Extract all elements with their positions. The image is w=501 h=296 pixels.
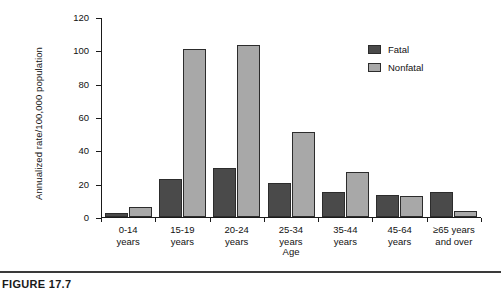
legend-label-fatal: Fatal xyxy=(388,44,409,55)
bar-group xyxy=(430,17,477,217)
caption-divider xyxy=(0,271,501,273)
x-tick-separator xyxy=(427,218,428,222)
bar-nonfatal xyxy=(183,49,206,217)
bar-series-container xyxy=(101,17,481,217)
bar-fatal xyxy=(376,195,399,217)
y-tick-label-0: 0 xyxy=(49,213,89,223)
x-tick-separator xyxy=(318,218,319,222)
x-category-label: 0-14years xyxy=(101,224,155,247)
bar-fatal xyxy=(268,183,291,216)
y-tick-label-120: 120 xyxy=(49,13,89,23)
legend-swatch-icon-fatal xyxy=(368,45,381,54)
y-tick-label-40: 40 xyxy=(49,146,89,156)
x-tick-separator xyxy=(101,218,102,222)
x-category-label: 20-24years xyxy=(210,224,264,247)
y-tick-label-60: 60 xyxy=(49,113,89,123)
x-tick-separator xyxy=(264,218,265,222)
legend-label-nonfatal: Nonfatal xyxy=(388,62,423,73)
x-axis-line xyxy=(101,217,481,219)
bar-fatal xyxy=(430,192,453,217)
y-axis-title: Annualized rate/100,000 population xyxy=(33,24,44,224)
bar-chart: Annualized rate/100,000 population 02040… xyxy=(0,0,501,258)
x-category-label: 35-44years xyxy=(318,224,372,247)
x-tick-separator xyxy=(210,218,211,222)
bar-group xyxy=(159,17,206,217)
bar-nonfatal xyxy=(400,196,423,217)
bar-nonfatal xyxy=(237,45,260,217)
bar-group xyxy=(105,17,152,217)
x-tick-separator xyxy=(481,218,482,222)
legend-item-fatal: Fatal xyxy=(368,44,423,55)
chart-legend: Fatal Nonfatal xyxy=(368,44,423,80)
x-category-label: 25-34years xyxy=(264,224,318,247)
y-tick-label-100: 100 xyxy=(49,46,89,56)
bar-group xyxy=(213,17,260,217)
y-tick-label-80: 80 xyxy=(49,80,89,90)
x-category-label: 15-19years xyxy=(155,224,209,247)
bar-group xyxy=(322,17,369,217)
bar-fatal xyxy=(105,213,128,216)
bar-fatal xyxy=(213,168,236,216)
figure-page: Annualized rate/100,000 population 02040… xyxy=(0,0,501,296)
bar-nonfatal xyxy=(454,211,477,217)
bar-fatal xyxy=(159,179,182,217)
bar-nonfatal xyxy=(346,172,369,217)
plot-area: 020406080100120 xyxy=(101,18,481,218)
x-tick-separator xyxy=(155,218,156,222)
x-tick-separator xyxy=(372,218,373,222)
bar-group xyxy=(268,17,315,217)
y-tick-label-20: 20 xyxy=(49,180,89,190)
legend-item-nonfatal: Nonfatal xyxy=(368,62,423,73)
figure-caption: FIGURE 17.7 xyxy=(2,278,71,290)
bar-nonfatal xyxy=(292,132,315,217)
x-category-label: ≥65 yearsand over xyxy=(427,224,481,247)
x-axis-title: Age xyxy=(101,246,481,257)
bar-fatal xyxy=(322,192,345,217)
legend-swatch-icon-nonfatal xyxy=(368,63,381,72)
bar-nonfatal xyxy=(129,207,152,217)
x-category-label: 45-64years xyxy=(372,224,426,247)
